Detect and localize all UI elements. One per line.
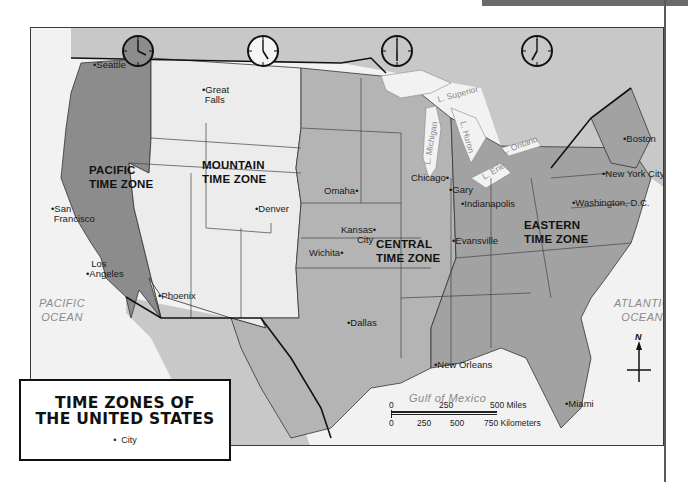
city-chicago: Chicago•: [411, 173, 449, 183]
zone-line1: EASTERN: [524, 218, 588, 232]
title-line2: THE UNITED STATES: [21, 411, 229, 427]
city-washington-dc: •Washington, D.C.: [572, 198, 649, 208]
city-phoenix: •Phoenix: [158, 291, 196, 301]
zone-line1: MOUNTAIN: [202, 158, 266, 172]
city-dallas: •Dallas: [347, 318, 377, 328]
city-los-angeles: Los•Angeles: [86, 259, 124, 279]
zone-label-eastern: EASTERNTIME ZONE: [524, 218, 588, 246]
zone-label-central: CENTRALTIME ZONE: [376, 237, 440, 265]
city-great-falls: •Great Falls: [202, 85, 229, 105]
scale-km-0: 0: [389, 418, 394, 428]
city-new-orleans: •New Orleans: [434, 360, 492, 370]
page-edge-line: [664, 0, 666, 482]
city-dot-icon: •: [113, 435, 116, 445]
scale-km-750: 750 Kilometers: [484, 418, 541, 428]
zone-label-pacific: PACIFICTIME ZONE: [89, 163, 153, 191]
city-kansas-city: Kansas•City: [341, 225, 376, 245]
zone-line2: TIME ZONE: [376, 251, 440, 265]
compass-north-label: N: [635, 332, 642, 342]
zone-line2: TIME ZONE: [202, 172, 266, 186]
city-denver: •Denver: [255, 204, 289, 214]
city-indianapolis: •Indianapolis: [461, 199, 515, 209]
scale-mile-500: 500 Miles: [490, 400, 526, 410]
scale-mile-0: 0: [389, 400, 394, 410]
zone-line2: TIME ZONE: [524, 232, 588, 246]
legend-key-label: City: [121, 435, 137, 445]
city-miami: •Miami: [565, 399, 594, 409]
city-omaha: Omaha•: [324, 186, 358, 196]
zone-label-mountain: MOUNTAINTIME ZONE: [202, 158, 266, 186]
clock-icon-mountain: [246, 34, 280, 68]
city-san-francisco: •San Francisco: [51, 204, 95, 224]
compass-icon: N: [625, 330, 653, 390]
legend-key-city: • City: [21, 435, 229, 445]
label-atlantic-ocean: ATLANTICOCEAN: [614, 296, 664, 324]
scale-mile-250: 250: [439, 400, 453, 410]
title-line1: TIME ZONES OF: [21, 395, 229, 411]
zone-line2: TIME ZONE: [89, 177, 153, 191]
city-gary: •Gary: [449, 185, 473, 195]
city-wichita: Wichita•: [309, 248, 343, 258]
clock-icon-eastern: [520, 34, 554, 68]
city-boston: •Boston: [623, 134, 656, 144]
city-seattle: •Seattle: [93, 60, 126, 70]
city-evansville: •Evansville: [452, 236, 498, 246]
label-pacific-ocean: PACIFICOCEAN: [39, 296, 85, 324]
city-new-york: •New York City: [602, 169, 664, 179]
scale-km-500: 500: [450, 418, 464, 428]
scale-km-250: 250: [417, 418, 431, 428]
legend-box: TIME ZONES OF THE UNITED STATES • City: [19, 379, 231, 461]
map-title: TIME ZONES OF THE UNITED STATES: [21, 395, 229, 427]
zone-line1: PACIFIC: [89, 163, 153, 177]
header-bar: [482, 0, 688, 6]
clock-icon-central: [380, 34, 414, 68]
clock-icon-pacific: [121, 34, 155, 68]
zone-line1: CENTRAL: [376, 237, 440, 251]
